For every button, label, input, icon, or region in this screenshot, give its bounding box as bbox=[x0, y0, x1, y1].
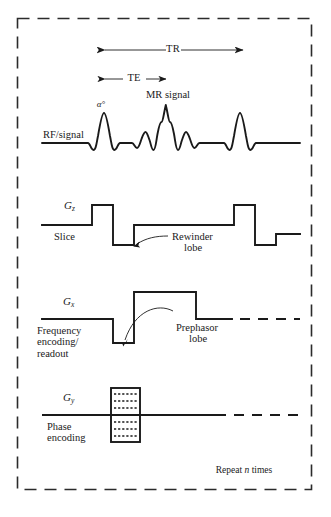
gy-axis-caption: Phase encoding bbox=[47, 421, 86, 444]
repeat-prefix: Repeat bbox=[216, 465, 245, 475]
pulse-sequence-diagram: TR TE RF/signal α° MR signal Gz Slice Re… bbox=[0, 0, 331, 517]
gy-symbol-main: G bbox=[63, 391, 71, 403]
gy-axis-symbol: Gy bbox=[63, 392, 74, 405]
gy-caption-line-2: encoding bbox=[47, 432, 86, 443]
gy-caption-line-1: Phase bbox=[47, 421, 86, 432]
gy-symbol-sub: y bbox=[71, 396, 74, 405]
repeat-note: Repeat n times bbox=[216, 465, 272, 475]
repeat-suffix: times bbox=[249, 465, 272, 475]
